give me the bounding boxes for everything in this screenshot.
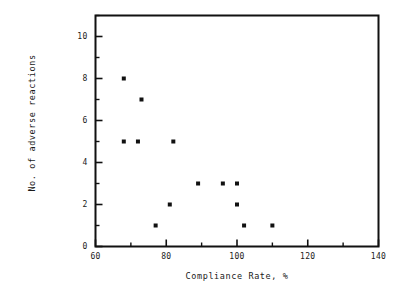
plot-canvas xyxy=(0,0,405,300)
data-point xyxy=(235,182,239,186)
x-tick-label: 60 xyxy=(76,252,116,261)
y-tick-label: 10 xyxy=(54,32,88,41)
plot-frame xyxy=(96,16,379,247)
y-tick-label: 4 xyxy=(54,158,88,167)
x-tick-label: 100 xyxy=(217,252,257,261)
data-point xyxy=(235,203,239,207)
data-point xyxy=(196,182,200,186)
data-point xyxy=(154,224,158,228)
data-point xyxy=(122,77,126,81)
data-point xyxy=(139,98,143,102)
y-tick-label: 0 xyxy=(54,242,88,251)
y-tick-label: 6 xyxy=(54,116,88,125)
data-point xyxy=(242,224,246,228)
x-tick-label: 120 xyxy=(288,252,328,261)
y-axis-title: No. of adverse reactions xyxy=(27,28,37,218)
x-tick-label: 80 xyxy=(146,252,186,261)
y-tick-label: 2 xyxy=(54,200,88,209)
data-point xyxy=(122,140,126,144)
y-tick-label: 8 xyxy=(54,74,88,83)
x-axis-title: Compliance Rate, % xyxy=(95,271,379,281)
data-point xyxy=(221,182,225,186)
data-point xyxy=(270,224,274,228)
scatter-chart-figure: 6080100120140 0246810 No. of adverse rea… xyxy=(0,0,405,300)
data-point xyxy=(171,140,175,144)
data-point xyxy=(136,140,140,144)
data-point xyxy=(168,203,172,207)
x-tick-label: 140 xyxy=(359,252,399,261)
